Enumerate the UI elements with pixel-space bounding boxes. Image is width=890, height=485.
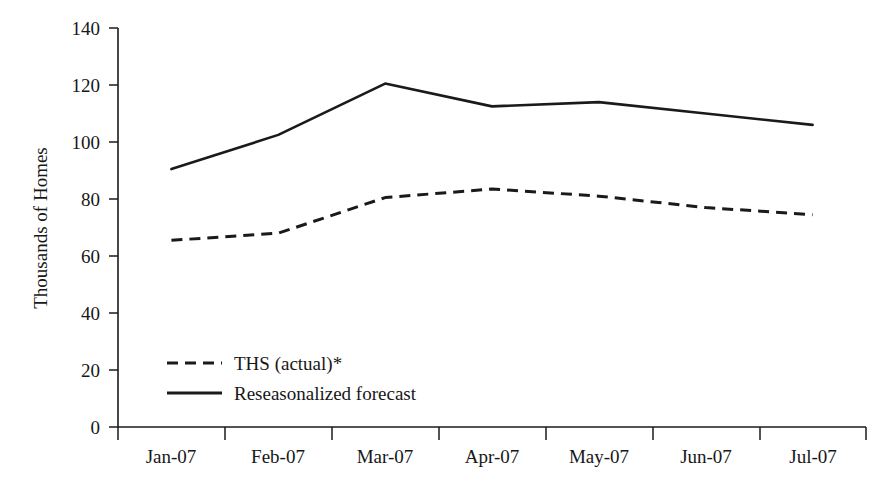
chart-legend: THS (actual)* Reseasonalized forecast	[167, 353, 417, 404]
y-axis-ticks	[109, 28, 118, 427]
legend-label-reseasonalized-forecast: Reseasonalized forecast	[234, 383, 417, 404]
legend-label-ths-actual: THS (actual)*	[234, 353, 342, 375]
x-tick-label-mar: Mar-07	[357, 446, 414, 467]
series-line-reseasonalized-forecast	[171, 84, 812, 170]
y-axis-title: Thousands of Homes	[30, 147, 51, 308]
x-tick-label-apr: Apr-07	[465, 446, 520, 467]
y-tick-label-20: 20	[81, 360, 100, 381]
x-tick-label-may: May-07	[569, 446, 629, 467]
x-tick-label-jun: Jun-07	[680, 446, 732, 467]
x-axis-tick-labels: Jan-07 Feb-07 Mar-07 Apr-07 May-07 Jun-0…	[146, 446, 837, 467]
x-tick-label-feb: Feb-07	[251, 446, 305, 467]
y-tick-label-80: 80	[81, 189, 100, 210]
y-tick-label-40: 40	[81, 303, 100, 324]
chart-container: Thousands of Homes 140 120 100 80 60 40 …	[0, 0, 890, 485]
x-tick-label-jul: Jul-07	[789, 446, 837, 467]
line-chart: Thousands of Homes 140 120 100 80 60 40 …	[0, 0, 890, 485]
x-tick-label-jan: Jan-07	[146, 446, 197, 467]
y-tick-label-140: 140	[72, 18, 101, 39]
y-tick-label-0: 0	[91, 417, 101, 438]
y-axis-tick-labels: 140 120 100 80 60 40 20 0	[72, 18, 101, 438]
y-tick-label-60: 60	[81, 246, 100, 267]
y-tick-label-100: 100	[72, 132, 101, 153]
y-tick-label-120: 120	[72, 75, 101, 96]
series-line-ths-actual	[171, 189, 812, 240]
x-axis-ticks	[118, 427, 866, 440]
